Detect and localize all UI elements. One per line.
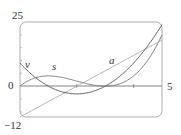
y-tick-top: 25 <box>12 10 23 21</box>
curve-v <box>20 25 162 94</box>
curve-label-s: s <box>52 61 56 72</box>
curve-label-a: a <box>109 55 115 66</box>
curve-label-v: v <box>25 59 30 70</box>
y-tick-zero: 0 <box>8 80 14 91</box>
y-tick-bottom: −12 <box>4 120 21 131</box>
curve-a <box>20 40 162 117</box>
x-tick-right: 5 <box>167 81 173 92</box>
